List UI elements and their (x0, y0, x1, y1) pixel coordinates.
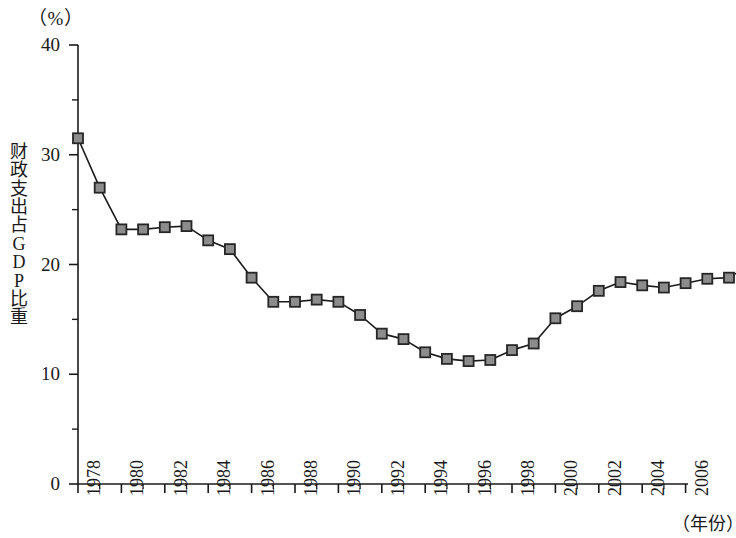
x-tick-label: 1988 (302, 460, 320, 496)
data-series-line (78, 138, 736, 361)
data-point-marker (594, 286, 604, 296)
fiscal-expenditure-gdp-chart: （%） 财 政 支 出 占 G D P 比 重 （年份） 01020304019… (0, 0, 736, 538)
data-point-marker (333, 297, 343, 307)
data-point-marker (464, 356, 474, 366)
data-point-marker (290, 297, 300, 307)
data-point-marker (95, 183, 105, 193)
data-point-marker (637, 280, 647, 290)
data-point-marker (138, 224, 148, 234)
x-tick-label: 1998 (519, 460, 537, 496)
data-point-marker (268, 297, 278, 307)
data-point-marker (203, 235, 213, 245)
y-tick-label: 30 (26, 145, 60, 164)
data-point-marker (420, 347, 430, 357)
data-point-marker (507, 345, 517, 355)
data-point-marker (160, 222, 170, 232)
data-point-marker (550, 313, 560, 323)
x-tick-label: 1992 (389, 460, 407, 496)
data-point-marker (616, 277, 626, 287)
data-point-marker (355, 310, 365, 320)
axis-lines (78, 45, 688, 484)
x-tick-label: 1994 (432, 460, 450, 496)
data-point-marker (225, 244, 235, 254)
data-point-marker (377, 329, 387, 339)
x-tick-label: 1980 (128, 460, 146, 496)
x-tick-label: 1984 (215, 460, 233, 496)
data-point-marker (572, 301, 582, 311)
y-tick-label: 10 (26, 364, 60, 383)
data-point-marker (681, 278, 691, 288)
data-point-marker (182, 221, 192, 231)
x-tick-label: 1990 (345, 460, 363, 496)
y-tick-label: 0 (26, 474, 60, 493)
data-point-marker (485, 355, 495, 365)
data-point-marker (399, 334, 409, 344)
data-point-marker (659, 283, 669, 293)
y-tick-marks (69, 45, 78, 484)
data-point-marker (724, 273, 734, 283)
data-point-marker (442, 354, 452, 364)
x-tick-label: 2006 (693, 460, 711, 496)
x-tick-marks (78, 484, 686, 493)
x-tick-label: 1986 (259, 460, 277, 496)
data-series-markers (73, 133, 736, 366)
data-point-marker (312, 295, 322, 305)
x-tick-label: 1982 (172, 460, 190, 496)
y-tick-label: 40 (26, 35, 60, 54)
data-point-marker (73, 133, 83, 143)
plot-area (0, 0, 736, 538)
data-point-marker (116, 224, 126, 234)
y-tick-label: 20 (26, 255, 60, 274)
x-tick-label: 1978 (85, 460, 103, 496)
x-tick-label: 2000 (562, 460, 580, 496)
x-tick-label: 2002 (606, 460, 624, 496)
x-tick-label: 2004 (649, 460, 667, 496)
data-point-marker (247, 273, 257, 283)
data-point-marker (702, 274, 712, 284)
x-tick-label: 1996 (476, 460, 494, 496)
data-point-marker (529, 339, 539, 349)
